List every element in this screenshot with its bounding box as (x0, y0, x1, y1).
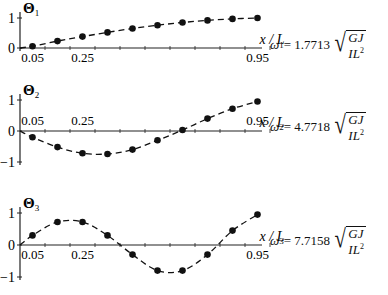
data-point (229, 227, 236, 234)
y-tick-label: 0 (8, 124, 15, 139)
data-point (229, 105, 236, 112)
data-point (104, 151, 111, 158)
data-point (154, 22, 161, 29)
omega-value: = 7.7158 (284, 233, 330, 249)
y-tick-label: 1 (8, 11, 15, 26)
omega-1-annotation: ω1 = 1.7713 √ GJIL2 (270, 30, 366, 60)
data-point (104, 29, 111, 36)
data-point (179, 267, 186, 274)
panel-title: Θ1 (23, 0, 39, 18)
sqrt-icon: √ GJIL2 (333, 30, 366, 60)
data-point (129, 251, 136, 258)
omega-2-annotation: ω2 = 4.7718 √ GJIL2 (270, 112, 366, 142)
omega-3-annotation: ω3 = 7.7158 √ GJIL2 (270, 226, 366, 256)
data-point (129, 146, 136, 153)
omega-symbol: ω (270, 233, 279, 249)
x-tick-label: 0.95 (246, 247, 269, 262)
omega-symbol: ω (270, 119, 279, 135)
data-point (29, 43, 36, 50)
x-tick-label: 0.25 (71, 113, 94, 128)
data-point (204, 17, 211, 24)
y-tick-label: −1 (0, 270, 15, 285)
y-tick-label: 0 (8, 41, 15, 56)
x-tick-label: 0.25 (71, 50, 94, 65)
data-point (54, 38, 61, 45)
sqrt-icon: √ GJIL2 (333, 112, 366, 142)
data-point (154, 137, 161, 144)
y-tick-label: −1 (0, 155, 15, 170)
data-point (54, 219, 61, 226)
panel-title: Θ2 (23, 82, 39, 100)
data-point (204, 251, 211, 258)
data-point (129, 25, 136, 32)
y-tick-label: 1 (8, 206, 15, 221)
data-point (204, 115, 211, 122)
x-tick-label: 0.95 (246, 50, 269, 65)
data-point (29, 232, 36, 239)
data-point (154, 267, 161, 274)
y-tick-label: 0 (8, 238, 15, 253)
data-point (254, 98, 261, 105)
data-point (254, 211, 261, 218)
data-point (179, 127, 186, 134)
data-point (79, 33, 86, 40)
data-point (54, 144, 61, 151)
data-point (229, 16, 236, 23)
omega-value: = 1.7713 (284, 37, 330, 53)
sqrt-icon: √ GJIL2 (333, 226, 366, 256)
y-tick-label: 1 (8, 93, 15, 108)
omega-symbol: ω (270, 37, 279, 53)
data-point (79, 219, 86, 226)
x-tick-label: 0.05 (21, 247, 44, 262)
data-point (254, 15, 261, 22)
data-point (179, 19, 186, 26)
data-point (104, 232, 111, 239)
data-point (29, 134, 36, 141)
data-point (79, 150, 86, 157)
omega-value: = 4.7718 (284, 119, 330, 135)
panel-title: Θ3 (23, 195, 40, 213)
x-tick-label: 0.05 (21, 113, 44, 128)
x-tick-label: 0.25 (71, 247, 94, 262)
x-tick-label: 0.05 (21, 50, 44, 65)
